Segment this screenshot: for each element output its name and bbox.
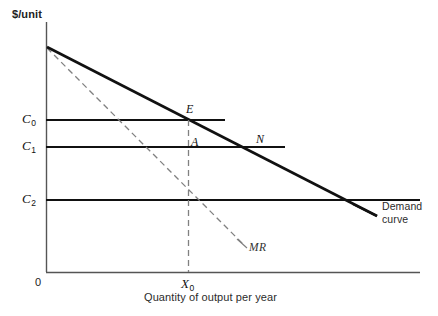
c0-subscript: 0	[31, 118, 36, 128]
c2-subscript: 2	[31, 198, 36, 208]
diagram-canvas	[0, 0, 438, 316]
economics-demand-diagram: $/unit C0 C1 C2 E A N MR Demand curve 0 …	[0, 0, 438, 316]
c0-text: C	[22, 111, 31, 126]
c2-text: C	[22, 191, 31, 206]
y-tick-label-c0: C0	[22, 112, 36, 125]
demand-curve-line	[47, 47, 377, 216]
point-label-n: N	[256, 133, 264, 145]
demand-curve-label-line1: Demand	[382, 200, 422, 213]
point-label-a: A	[191, 136, 198, 148]
c1-text: C	[22, 138, 31, 153]
x-axis-title: Quantity of output per year	[144, 292, 277, 303]
demand-curve-label-line2: curve	[382, 213, 422, 226]
y-tick-label-c1: C1	[22, 139, 36, 152]
y-tick-label-c2: C2	[22, 192, 36, 205]
mr-curve-label: MR	[249, 242, 266, 254]
x-tick-label-x0: X0	[181, 277, 194, 290]
y-axis-title: $/unit	[12, 9, 42, 20]
demand-label-leader-line	[353, 204, 377, 216]
origin-label: 0	[35, 277, 41, 288]
c1-subscript: 1	[31, 145, 36, 155]
demand-curve-label: Demand curve	[382, 200, 422, 226]
x0-text: X	[181, 276, 189, 291]
mr-label-leader-line	[237, 239, 247, 248]
point-label-e: E	[186, 103, 193, 115]
